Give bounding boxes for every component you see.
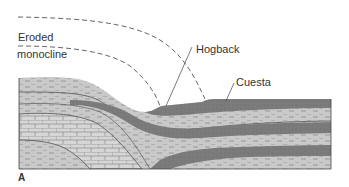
- hogback-label: Hogback: [196, 44, 239, 55]
- panel-label: A: [18, 173, 25, 183]
- monocline-cross-section: [0, 0, 349, 187]
- cuesta-leader: [226, 83, 234, 101]
- eroded-label: Eroded: [18, 32, 53, 43]
- rock-layers: [19, 60, 331, 170]
- cuesta-label: Cuesta: [236, 77, 271, 88]
- monocline-label: monocline: [17, 49, 67, 60]
